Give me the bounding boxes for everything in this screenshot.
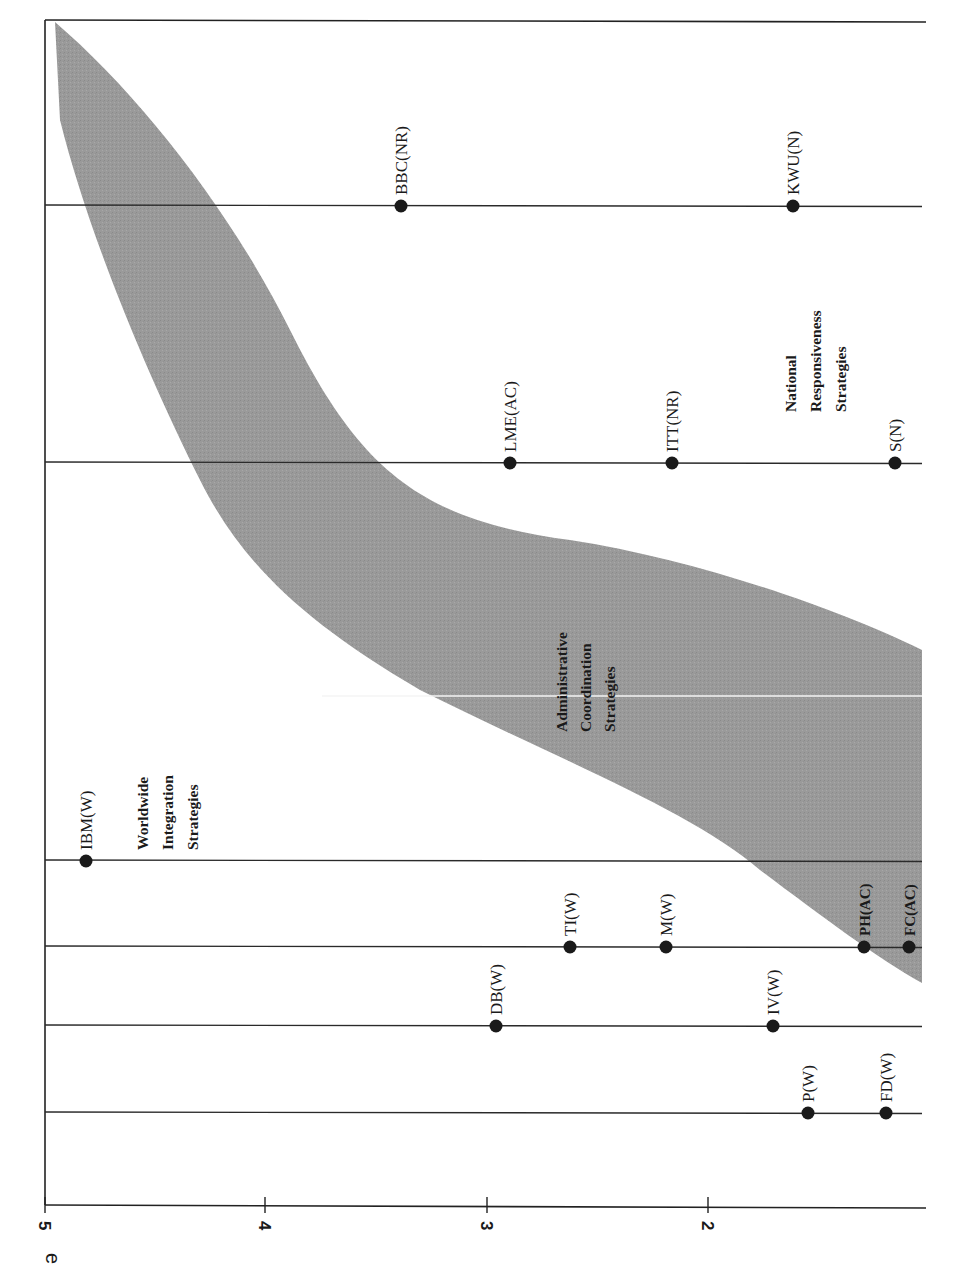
tick-label: 5	[35, 1221, 54, 1230]
data-point-label: DB(W)	[487, 964, 506, 1015]
data-point-marker	[880, 1107, 893, 1120]
data-point-label: M(W)	[657, 894, 676, 936]
tick-label: 2	[698, 1221, 717, 1230]
category-line	[45, 462, 922, 464]
data-point-marker	[858, 941, 871, 954]
data-point-marker	[660, 941, 673, 954]
data-point-marker	[666, 457, 679, 470]
svg-text:Coordination: Coordination	[577, 643, 594, 732]
data-point-marker	[564, 941, 577, 954]
y-axis-ticks: 5432	[35, 1197, 717, 1231]
data-point-label: IBM(W)	[77, 791, 96, 850]
svg-text:Integration: Integration	[159, 775, 176, 850]
data-point-marker	[889, 457, 902, 470]
data-point-label: IV(W)	[764, 970, 783, 1015]
data-point-marker	[80, 855, 93, 868]
top-border	[45, 20, 926, 22]
svg-text:Administrative: Administrative	[553, 632, 570, 732]
data-point-label: FD(W)	[877, 1053, 896, 1102]
data-point-label: PH(AC)	[857, 884, 874, 937]
data-point-label: TI(W)	[561, 893, 580, 936]
data-point-marker	[903, 941, 916, 954]
svg-text:Strategies: Strategies	[832, 347, 849, 412]
rotated-scatter-chart: 5432 BBC(NR)KWU(N)LME(AC)ITT(NR)S(N)IBM(…	[0, 0, 972, 1277]
data-point-label: KWU(N)	[784, 131, 803, 195]
data-point-label: ITT(NR)	[663, 391, 682, 452]
category-line	[45, 1112, 922, 1114]
data-point-marker	[787, 200, 800, 213]
tick-label: 4	[255, 1221, 274, 1231]
category-line	[45, 946, 922, 948]
tick-label: 3	[477, 1221, 496, 1230]
data-point-marker	[802, 1107, 815, 1120]
svg-text:Strategies: Strategies	[184, 785, 201, 850]
data-point-label: LME(AC)	[501, 381, 520, 452]
axis-label-fragment: e	[42, 1253, 64, 1264]
region-label: NationalResponsivenessStrategies	[782, 310, 849, 412]
value-axis	[45, 1205, 926, 1208]
category-line	[45, 1025, 922, 1027]
data-point-label: P(W)	[799, 1065, 818, 1102]
data-point-marker	[395, 200, 408, 213]
data-point-label: BBC(NR)	[392, 126, 411, 195]
data-point-label: S(N)	[886, 419, 905, 452]
data-point-marker	[504, 457, 517, 470]
region-label: WorldwideIntegrationStrategies	[134, 775, 201, 850]
axis-title-fragment: e	[42, 1253, 64, 1264]
svg-text:National: National	[782, 354, 799, 412]
svg-text:Responsiveness: Responsiveness	[807, 310, 824, 412]
data-point-marker	[490, 1020, 503, 1033]
data-point-label: FC(AC)	[902, 884, 919, 936]
svg-text:Strategies: Strategies	[601, 667, 618, 732]
svg-text:Worldwide: Worldwide	[134, 777, 151, 850]
data-point-marker	[767, 1020, 780, 1033]
